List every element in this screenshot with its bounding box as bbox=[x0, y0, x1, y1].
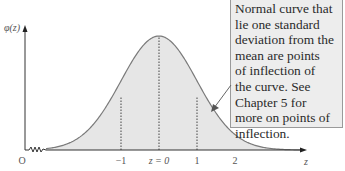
axis-break-zigzag bbox=[25, 147, 46, 152]
origin-label: O bbox=[18, 156, 25, 166]
tick-label-0: z = 0 bbox=[149, 156, 170, 166]
tick-label-2: 2 bbox=[233, 156, 238, 166]
y-axis-arrow-icon bbox=[23, 25, 28, 32]
annotation-line: Normal curve that bbox=[235, 1, 342, 17]
x-axis-label: z bbox=[304, 157, 308, 167]
tick-label-minus-1: −1 bbox=[116, 156, 127, 166]
annotation-box: Normal curve that lie one standard devia… bbox=[230, 0, 343, 128]
annotation-line: Chapter 5 for bbox=[235, 95, 342, 111]
annotation-line: inflection. bbox=[235, 126, 342, 142]
annotation-line: lie one standard bbox=[235, 17, 342, 33]
y-axis-label: φ(z) bbox=[4, 23, 20, 33]
annotation-line: the curve. See bbox=[235, 79, 342, 95]
tick-label-1: 1 bbox=[195, 156, 200, 166]
annotation-line: of inflection of bbox=[235, 63, 342, 79]
annotation-line: mean are points bbox=[235, 48, 342, 64]
annotation-line: deviation from the bbox=[235, 32, 342, 48]
annotation-line: more on points of bbox=[235, 110, 342, 126]
x-axis-arrow-icon bbox=[300, 148, 307, 153]
